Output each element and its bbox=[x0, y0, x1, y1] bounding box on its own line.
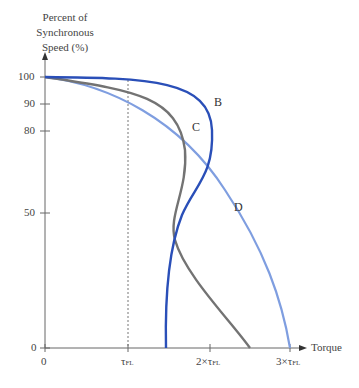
y-axis-label: Percent of Synchronous Speed (%) bbox=[30, 10, 100, 55]
curve-label-d: D bbox=[234, 200, 243, 215]
curve-label-b: B bbox=[214, 95, 222, 110]
y-tick-50: 50 bbox=[24, 206, 35, 218]
x-tick-0: 0 bbox=[41, 355, 47, 367]
x-tick-tau-fl: τFL bbox=[121, 355, 134, 367]
curve-c bbox=[45, 77, 250, 348]
y-tick-100: 100 bbox=[18, 70, 35, 82]
curve-b bbox=[45, 77, 212, 348]
y-label-line-3: Speed (%) bbox=[30, 40, 100, 55]
y-label-line-1: Percent of bbox=[30, 10, 100, 25]
curve-label-c: C bbox=[192, 120, 200, 135]
y-label-line-2: Synchronous bbox=[30, 25, 100, 40]
torque-speed-chart bbox=[0, 0, 359, 388]
x-axis-arrow-icon bbox=[299, 345, 307, 351]
y-tick-80: 80 bbox=[24, 124, 35, 136]
y-tick-0: 0 bbox=[31, 341, 37, 353]
y-tick-90: 90 bbox=[24, 97, 35, 109]
x-tick-2-tau-fl: 2×τFL bbox=[196, 355, 220, 367]
curve-d bbox=[45, 77, 290, 348]
x-axis-label: Torque bbox=[311, 341, 342, 353]
x-tick-3-tau-fl: 3×τFL bbox=[276, 355, 300, 367]
